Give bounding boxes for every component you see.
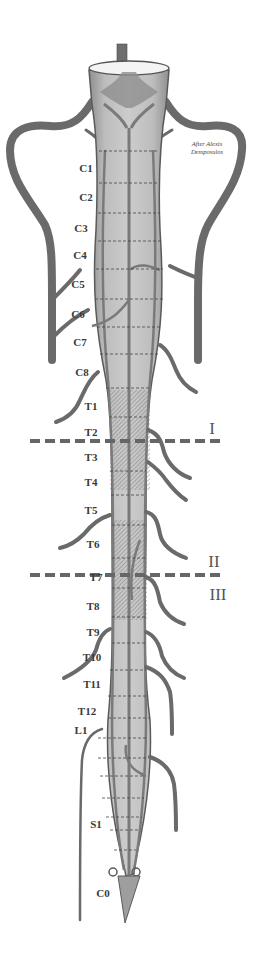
- zone-label-II: II: [208, 552, 220, 571]
- spinal-cord-diagram: C1 C2 C3 C4 C5 C6 C7 C8 T1 T2 T3 T4 T5 T…: [0, 0, 259, 954]
- label-t3: T3: [85, 451, 98, 463]
- label-t1: T1: [85, 400, 98, 412]
- label-t6: T6: [87, 538, 100, 550]
- zone-label-I: I: [209, 419, 215, 438]
- attribution-line-2: Demposulos: [190, 148, 224, 155]
- label-c3: C3: [74, 222, 88, 234]
- label-s1: S1: [90, 818, 102, 830]
- radicular-right-t2: [148, 430, 190, 478]
- label-t10: T10: [83, 651, 102, 663]
- label-c2: C2: [79, 191, 93, 203]
- conus-loop-left: [109, 868, 117, 876]
- label-t11: T11: [83, 678, 101, 690]
- label-c4: C4: [73, 249, 87, 261]
- zone-label-III: III: [210, 585, 227, 604]
- label-c5: C5: [71, 278, 85, 290]
- label-c8: C8: [75, 366, 89, 378]
- label-t4: T4: [85, 476, 98, 488]
- label-t12: T12: [78, 705, 97, 717]
- label-t2: T2: [85, 426, 98, 438]
- label-c6: C6: [71, 308, 85, 320]
- filum-terminale: [118, 876, 140, 923]
- attribution: After Alexis Demposulos: [190, 140, 224, 155]
- label-c7: C7: [73, 336, 87, 348]
- radicular-right-lumbar: [150, 757, 176, 830]
- radicular-right-t7: [146, 577, 184, 624]
- radicular-right-t3: [148, 462, 186, 500]
- label-t9: T9: [87, 626, 100, 638]
- label-t8: T8: [87, 600, 100, 612]
- radicular-right-c7: [160, 345, 196, 392]
- attribution-line-1: After Alexis: [191, 140, 223, 147]
- radicular-left-t5: [60, 515, 110, 548]
- label-l1: L1: [75, 724, 88, 736]
- label-c1: C1: [79, 162, 92, 174]
- label-t7: T7: [90, 571, 103, 583]
- label-c0: C0: [96, 887, 110, 899]
- right-c5-branch: [170, 266, 198, 278]
- label-t5: T5: [85, 504, 98, 516]
- radicular-left-c8: [56, 372, 98, 422]
- radicular-right-t5: [146, 512, 186, 558]
